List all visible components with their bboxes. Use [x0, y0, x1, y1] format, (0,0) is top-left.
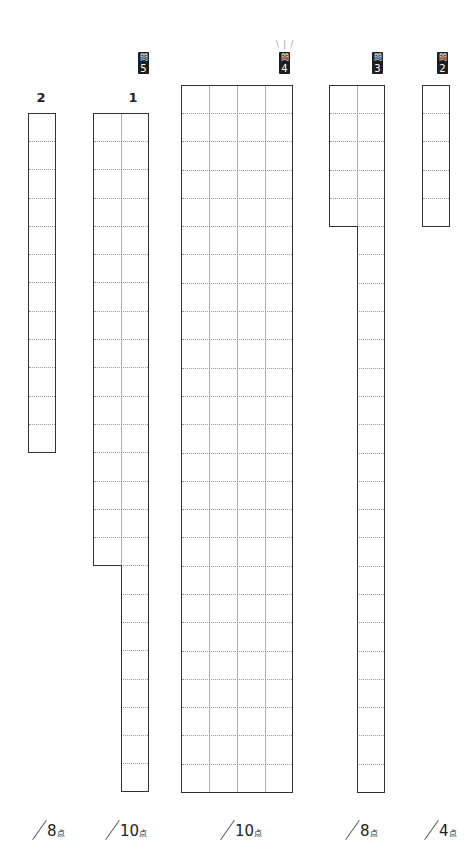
score-q2: 4 点 — [424, 820, 457, 840]
score-unit: 点 — [57, 828, 65, 840]
grid-step-edge — [357, 226, 358, 792]
badge-number: 4 — [281, 63, 287, 74]
badge-number: 3 — [374, 63, 380, 74]
slash-icon — [105, 820, 119, 840]
score-unit: 点 — [139, 828, 147, 840]
score-unit: 点 — [370, 828, 378, 840]
answer-grid-q4[interactable] — [181, 85, 293, 793]
badge-kanji: 問 — [140, 53, 148, 63]
sparkle-icon: \ | / — [276, 40, 294, 49]
question-3-badge: 問 3 — [372, 52, 383, 74]
grid-step-mask — [92, 566, 121, 794]
score-points: 10 — [235, 822, 254, 840]
badge-kanji: 問 — [281, 53, 289, 63]
answer-grid-q2[interactable] — [422, 85, 450, 227]
answer-grid-q5-2[interactable] — [28, 113, 56, 453]
slash-icon — [345, 820, 359, 840]
grid-step-edge — [329, 226, 358, 227]
score-q3: 8 点 — [345, 820, 378, 840]
score-points: 4 — [439, 822, 449, 840]
grid-step-edge — [93, 565, 122, 566]
score-unit: 点 — [254, 828, 262, 840]
score-q5-1: 10 点 — [105, 820, 147, 840]
grid-step-mask — [328, 227, 357, 795]
slash-icon — [220, 820, 234, 840]
score-q4: 10 点 — [220, 820, 262, 840]
sub-question-2-label: 2 — [31, 90, 51, 105]
score-unit: 点 — [449, 828, 457, 840]
score-points: 8 — [47, 822, 57, 840]
badge-kanji: 問 — [439, 53, 447, 63]
question-5-badge: 問 5 — [138, 52, 149, 74]
score-q5-2: 8 点 — [32, 820, 65, 840]
question-2-badge: 問 2 — [437, 52, 448, 74]
score-points: 10 — [120, 822, 139, 840]
score-points: 8 — [360, 822, 370, 840]
badge-kanji: 問 — [374, 53, 382, 63]
sub-question-1-label: 1 — [123, 90, 143, 105]
badge-number: 5 — [140, 63, 146, 74]
grid-step-edge — [121, 565, 122, 792]
slash-icon — [424, 820, 438, 840]
slash-icon — [32, 820, 46, 840]
question-4-badge: 問 4 — [279, 52, 290, 74]
badge-number: 2 — [439, 63, 445, 74]
